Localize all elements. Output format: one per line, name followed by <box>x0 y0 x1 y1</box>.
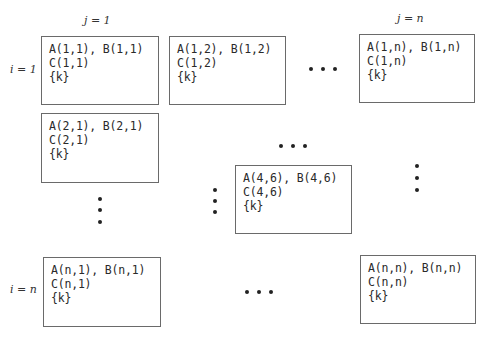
cell-index-set: {k} <box>49 147 158 161</box>
cell-index-set: {k} <box>51 291 160 305</box>
cell-index-set: {k} <box>177 70 285 84</box>
cell-result: C(1,1) <box>49 56 158 70</box>
cell-1-n: A(1,n), B(1,n) C(1,n) {k} <box>359 34 475 103</box>
cell-operands: A(2,1), B(2,1) <box>49 119 158 133</box>
cell-operands: A(n,n), B(n,n) <box>368 261 475 275</box>
cell-n-1: A(n,1), B(n,1) C(n,1) {k} <box>43 257 161 327</box>
cell-index-set: {k} <box>367 68 474 82</box>
cell-result: C(1,n) <box>367 54 474 68</box>
cell-1-2: A(1,2), B(1,2) C(1,2) {k} <box>169 36 286 105</box>
cell-operands: A(n,1), B(n,1) <box>51 263 160 277</box>
cell-index-set: {k} <box>49 70 158 84</box>
processor-grid-diagram: j = 1 j = n i = 1 i = n A(1,1), B(1,1) C… <box>0 0 493 342</box>
cell-operands: A(1,n), B(1,n) <box>367 40 474 54</box>
cell-1-1: A(1,1), B(1,1) C(1,1) {k} <box>41 36 159 105</box>
cell-operands: A(4,6), B(4,6) <box>243 171 351 185</box>
cell-2-1: A(2,1), B(2,1) C(2,1) {k} <box>41 113 159 183</box>
cell-index-set: {k} <box>243 199 351 213</box>
column-label-j-n: j = n <box>397 12 424 25</box>
cell-result: C(2,1) <box>49 133 158 147</box>
cell-n-n: A(n,n), B(n,n) C(n,n) {k} <box>360 255 476 324</box>
cell-result: C(n,n) <box>368 275 475 289</box>
cell-index-set: {k} <box>368 289 475 303</box>
cell-result: C(n,1) <box>51 277 160 291</box>
cell-operands: A(1,1), B(1,1) <box>49 42 158 56</box>
row-label-i-n: i = n <box>10 283 37 296</box>
cell-result: C(1,2) <box>177 56 285 70</box>
row-label-i-1: i = 1 <box>10 63 37 76</box>
column-label-j-1: j = 1 <box>84 14 111 27</box>
cell-operands: A(1,2), B(1,2) <box>177 42 285 56</box>
cell-result: C(4,6) <box>243 185 351 199</box>
cell-4-6: A(4,6), B(4,6) C(4,6) {k} <box>235 165 352 234</box>
